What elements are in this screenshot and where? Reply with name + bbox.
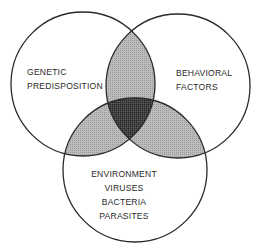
label-behavioral: BEHAVIORAL FACTORS <box>176 66 232 94</box>
label-behavioral-line1: BEHAVIORAL <box>176 66 232 80</box>
label-genetic: GENETIC PREDISPOSITION <box>27 65 103 93</box>
label-environment-line2: VIRUSES <box>84 181 164 195</box>
label-behavioral-line2: FACTORS <box>176 80 232 94</box>
label-environment-line4: PARASITES <box>84 209 164 223</box>
label-genetic-line1: GENETIC <box>27 65 103 79</box>
label-environment-line1: ENVIRONMENT <box>84 167 164 181</box>
label-environment-line3: BACTERIA <box>84 195 164 209</box>
label-environment: ENVIRONMENT VIRUSES BACTERIA PARASITES <box>84 167 164 223</box>
label-genetic-line2: PREDISPOSITION <box>27 79 103 93</box>
